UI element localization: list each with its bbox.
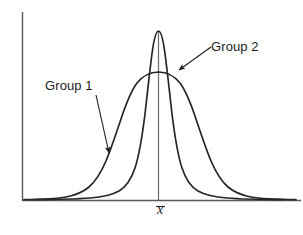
group-1-leader-arrow — [96, 95, 109, 153]
group-2-leader-arrow — [179, 47, 211, 70]
normal-distribution-figure: Group 1 Group 2 x — [0, 0, 303, 235]
x-bar-axis-label: x — [150, 203, 170, 217]
x-bar-overline-icon — [156, 206, 165, 207]
group-1-annotation-label: Group 1 — [45, 78, 93, 93]
group-2-annotation-label: Group 2 — [211, 39, 259, 54]
plot-canvas — [0, 0, 303, 235]
